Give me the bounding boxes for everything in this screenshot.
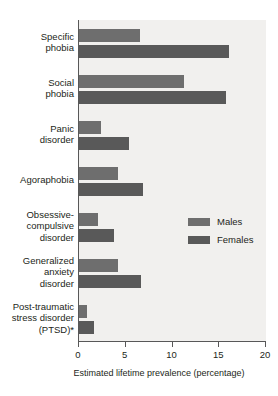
- x-axis-tick-label: 0: [66, 349, 90, 360]
- y-axis-category-labels: Specific phobiaSocial phobiaPanic disord…: [0, 0, 74, 396]
- bar-males: [79, 305, 87, 318]
- y-axis-label: Generalized anxiety disorder: [0, 255, 74, 290]
- x-axis-tick-label: 10: [160, 349, 184, 360]
- category-group: [79, 305, 266, 334]
- chart-legend: MalesFemales: [188, 216, 253, 252]
- category-group: [79, 75, 266, 104]
- bar-females: [79, 275, 141, 288]
- x-axis-tick: [125, 342, 126, 347]
- y-axis-label: Agoraphobia: [0, 174, 74, 186]
- y-axis-label: Social phobia: [0, 77, 74, 100]
- y-axis-label: Obsessive- compulsive disorder: [0, 209, 74, 244]
- x-axis-tick-label: 20: [253, 349, 277, 360]
- category-group: [79, 29, 266, 58]
- bar-chart: Specific phobiaSocial phobiaPanic disord…: [0, 0, 278, 396]
- legend-swatch-males: [188, 218, 210, 226]
- bar-females: [79, 183, 143, 196]
- bar-males: [79, 29, 140, 42]
- bar-males: [79, 167, 118, 180]
- bar-females: [79, 91, 226, 104]
- bar-females: [79, 137, 129, 150]
- legend-label: Females: [217, 234, 253, 245]
- legend-swatch-females: [188, 236, 210, 244]
- category-group: [79, 167, 266, 196]
- x-axis-title: Estimated lifetime prevalence (percentag…: [0, 368, 278, 378]
- x-axis-tick-label: 5: [113, 349, 137, 360]
- x-axis-tick: [218, 342, 219, 347]
- x-axis-tick: [78, 342, 79, 347]
- bar-females: [79, 321, 94, 334]
- x-axis-tick-label: 15: [206, 349, 230, 360]
- bar-females: [79, 229, 114, 242]
- category-group: [79, 121, 266, 150]
- plot-area: [78, 20, 266, 342]
- x-axis-tick: [172, 342, 173, 347]
- bar-males: [79, 75, 184, 88]
- legend-entry: Males: [188, 216, 253, 227]
- bar-males: [79, 121, 101, 134]
- bar-females: [79, 45, 229, 58]
- x-axis-tick: [265, 342, 266, 347]
- legend-label: Males: [217, 216, 242, 227]
- bar-males: [79, 213, 98, 226]
- legend-entry: Females: [188, 234, 253, 245]
- bar-males: [79, 259, 118, 272]
- category-group: [79, 259, 266, 288]
- y-axis-label: Panic disorder: [0, 123, 74, 146]
- y-axis-label: Specific phobia: [0, 31, 74, 54]
- y-axis-label: Post-traumatic stress disorder (PTSD)*: [0, 301, 74, 336]
